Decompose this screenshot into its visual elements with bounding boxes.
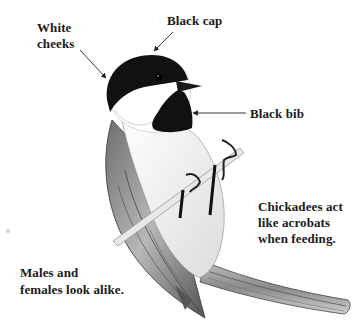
head (107, 55, 202, 132)
caption-line: like acrobats (258, 215, 343, 231)
tail (200, 262, 350, 314)
males-females-caption: Males and females look alike. (20, 264, 124, 298)
white-cheeks-label: White cheeks (37, 20, 74, 52)
caption-line: Males and (20, 264, 124, 281)
black-bib-label: Black bib (250, 106, 304, 122)
caption-line: females look alike. (20, 281, 124, 298)
black-cap-arrow (154, 32, 173, 51)
label-line: Black cap (167, 13, 222, 29)
caption-line: when feeding. (258, 231, 343, 247)
acrobats-caption: Chickadees act like acrobats when feedin… (258, 199, 343, 247)
chickadee-diagram: White cheeks Black cap Black bib Chickad… (0, 0, 364, 333)
label-line: Black bib (250, 106, 304, 122)
caption-line: Chickadees act (258, 199, 343, 215)
white-cheeks-arrow (80, 50, 106, 78)
label-line: cheeks (37, 36, 74, 52)
eye (156, 74, 162, 80)
black-cap-label: Black cap (167, 13, 222, 29)
label-line: White (37, 20, 74, 36)
